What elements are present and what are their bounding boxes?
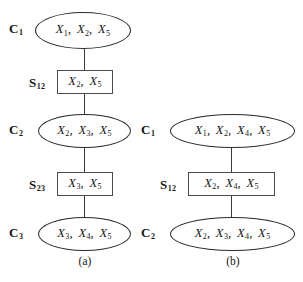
node-label-b-c2-letter: C [141, 225, 150, 240]
node-label-a-s23: S23 [29, 178, 45, 193]
node-label-a-c1: C1 [9, 22, 23, 37]
var-index: 4 [233, 182, 237, 191]
node-label-b-c2-subscript: 2 [151, 232, 155, 241]
edge-a-c1-s12 [84, 46, 85, 71]
clique-a-c3-variables: X3, X4, X5 [57, 227, 111, 241]
node-label-a-c2: C2 [9, 123, 23, 138]
var-index: 3 [76, 182, 80, 191]
caption-b: (b) [208, 255, 258, 267]
edge-b-c1-s12 [231, 147, 232, 173]
caption-a: (a) [60, 255, 110, 267]
var-index: 5 [108, 129, 112, 138]
node-label-a-s12-letter: S [29, 75, 36, 90]
node-label-b-s12-letter: S [160, 177, 167, 192]
var-index: 4 [86, 232, 90, 241]
node-label-a-c3-subscript: 3 [19, 232, 23, 241]
var-index: 5 [108, 232, 112, 241]
edge-a-s23-c3 [84, 195, 85, 219]
node-label-b-s12: S12 [160, 178, 176, 193]
edge-b-s12-c2 [231, 195, 232, 219]
node-label-a-s23-subscript: 23 [37, 184, 45, 193]
node-label-b-s12-subscript: 12 [168, 184, 176, 193]
clique-b-c1[interactable]: X1, X2, X4, X5 [170, 114, 295, 148]
separator-a-s23[interactable]: X3, X5 [57, 172, 113, 196]
var-index: 5 [266, 232, 270, 241]
node-label-b-c1-subscript: 1 [151, 129, 155, 138]
separator-a-s23-variables: X3, X5 [68, 177, 101, 191]
node-label-a-c2-letter: C [9, 122, 18, 137]
node-label-b-c1: C1 [141, 123, 155, 138]
clique-b-c1-variables: X1, X2, X4, X5 [195, 124, 271, 138]
node-label-a-s12-subscript: 12 [37, 82, 45, 91]
node-label-a-s23-letter: S [29, 177, 36, 192]
clique-b-c2[interactable]: X2, X3, X4, X5 [170, 217, 295, 251]
node-label-b-c2: C2 [141, 226, 155, 241]
var-index: 5 [266, 129, 270, 138]
var-index: 5 [106, 29, 110, 38]
node-label-a-c1-subscript: 1 [19, 28, 23, 37]
node-label-a-c3: C3 [9, 226, 23, 241]
var-index: 2 [76, 80, 80, 89]
edge-a-c2-s23 [84, 147, 85, 173]
var-index: 5 [98, 80, 102, 89]
node-label-a-s12: S12 [29, 76, 45, 91]
clique-a-c2[interactable]: X2, X3, X5 [38, 114, 131, 148]
clique-a-c3[interactable]: X3, X4, X5 [38, 217, 131, 251]
clique-a-c1-variables: X1, X2, X5 [56, 23, 110, 37]
node-label-a-c1-letter: C [9, 21, 18, 36]
separator-a-s12-variables: X2, X5 [68, 75, 101, 89]
junction-tree-figure: C1 X1, X2, X5 S12 X2, X5 C2 X2, X3, X5 S… [0, 0, 303, 282]
node-label-a-c2-subscript: 2 [19, 129, 23, 138]
node-label-b-c1-letter: C [141, 122, 150, 137]
separator-a-s12[interactable]: X2, X5 [57, 70, 113, 94]
separator-b-s12-variables: X2, X4, X5 [204, 177, 258, 191]
node-label-a-c3-letter: C [9, 225, 18, 240]
var-index: 5 [98, 182, 102, 191]
separator-b-s12[interactable]: X2, X4, X5 [188, 172, 275, 196]
clique-a-c1[interactable]: X1, X2, X5 [35, 12, 131, 49]
var-index: 3 [86, 129, 90, 138]
var-index: 5 [255, 182, 259, 191]
clique-b-c2-variables: X2, X3, X4, X5 [195, 227, 271, 241]
clique-a-c2-variables: X2, X3, X5 [57, 124, 111, 138]
